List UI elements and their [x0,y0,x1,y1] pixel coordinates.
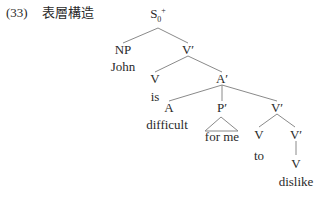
node-pbar: P′ [217,101,227,115]
leaf-is: is [151,90,160,104]
leaf-difficult: difficult [146,118,188,132]
leaf-dislike: dislike [279,175,314,189]
example-title: 表層構造 [42,6,94,20]
node-np: NP [115,43,132,57]
node-a: A [164,101,173,115]
node-vbar-1: V′ [182,43,194,57]
leaf-john: John [111,60,136,74]
node-s0-plus: S0+ [150,7,166,21]
node-v-2: V [254,128,263,142]
node-v-1: V [150,72,159,86]
example-number: (33) [6,6,28,20]
leaf-for-me: for me [205,130,239,144]
node-vbar-3: V′ [290,128,302,142]
leaf-to: to [254,149,264,163]
node-v-3: V [291,157,300,171]
tree-edges [0,0,321,197]
node-vbar-2: V′ [271,101,283,115]
node-abar: A′ [216,72,228,86]
